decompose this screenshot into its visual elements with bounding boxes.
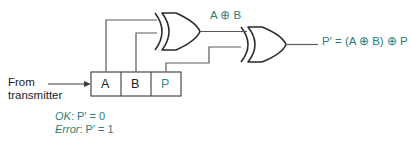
wire-p	[166, 47, 241, 72]
legend-expr-ok: P′ = 0	[77, 110, 105, 122]
legend-item-error: Error: P′ = 1	[55, 123, 114, 136]
legend-expr-error: P′ = 1	[86, 123, 114, 135]
source-label: From transmitter	[8, 76, 62, 102]
frame-cell-a: A	[101, 77, 109, 91]
xor-gate-2[interactable]	[241, 27, 318, 62]
wire-a	[106, 20, 157, 72]
legend-term-error: Error	[55, 123, 79, 135]
legend-item-ok: OK: P′ = 0	[55, 110, 105, 123]
output-label: P′ = (A ⊕ B) ⊕ P	[322, 34, 408, 48]
intermediate-label: A ⊕ B	[210, 8, 241, 22]
legend-term-ok: OK	[55, 110, 71, 122]
source-label-line2: transmitter	[8, 89, 62, 101]
wire-b	[136, 33, 157, 72]
source-label-line1: From	[8, 76, 35, 88]
frame-cell-p: P	[161, 77, 169, 91]
frame-cell-b: B	[131, 77, 139, 91]
circuit-diagram: From transmitter A B P A ⊕ B P′ = (A ⊕ B…	[0, 0, 411, 153]
